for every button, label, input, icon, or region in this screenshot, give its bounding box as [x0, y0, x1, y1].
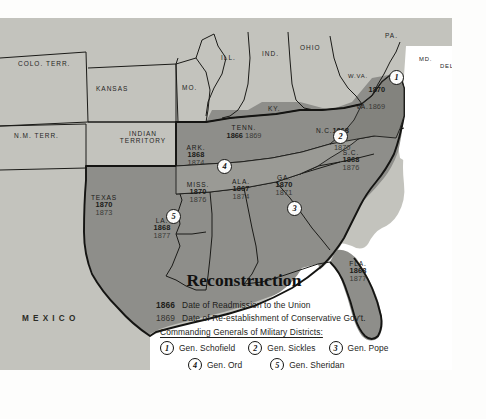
district-badge-4-icon: 4 [188, 358, 202, 370]
country-label-mexico: MEXICO [22, 314, 80, 323]
region-label-del: DEL. [440, 63, 452, 70]
legend-commander-3[interactable]: 3 Gen. Pope [329, 341, 389, 355]
legend-commanders-row-1: 1 Gen. Schofield 2 Gen. Sickles 3 Gen. P… [160, 341, 402, 355]
district-badge-2-icon: 2 [248, 341, 262, 355]
region-label-pa: PA. [385, 32, 398, 39]
district-marker-3[interactable]: 3 [287, 201, 302, 216]
state-label-texas: TEXAS 1870 1873 [76, 194, 132, 217]
legend-commander-5[interactable]: 5 Gen. Sheridan [270, 358, 344, 370]
legend-commander-4[interactable]: 4 Gen. Ord [188, 358, 242, 370]
paper-frame: COLO. TERR. N.M. TERR. KANSAS INDIAN TER… [0, 0, 486, 419]
reconstruction-map-page: COLO. TERR. N.M. TERR. KANSAS INDIAN TER… [0, 0, 486, 419]
state-label-tenn: TENN. 1866 1869 [205, 124, 283, 140]
region-label-md: MD. [419, 56, 432, 63]
state-label-ga: GA. 1870 1871 [266, 174, 302, 197]
map-legend: Reconstruction 1866Date of Readmission t… [0, 270, 452, 291]
region-label-mo: MO. [182, 84, 197, 91]
legend-key-conservative: 1869Date of Re-establishment of Conserva… [156, 313, 366, 323]
district-marker-1[interactable]: 1 [389, 70, 404, 85]
region-label-colo-terr: COLO. TERR. [18, 60, 70, 67]
district-badge-5-icon: 5 [270, 358, 284, 370]
map-image: COLO. TERR. N.M. TERR. KANSAS INDIAN TER… [0, 18, 452, 370]
legend-commanders-header: Commanding Generals of Military District… [160, 327, 323, 337]
district-badge-1-icon: 1 [160, 341, 174, 355]
legend-commander-2[interactable]: 2 Gen. Sickles [248, 341, 315, 355]
legend-key-readmission: 1866Date of Readmission to the Union [156, 300, 310, 310]
region-label-nm-terr: N.M. TERR. [14, 132, 59, 139]
district-badge-3-icon: 3 [329, 341, 343, 355]
map-title: Reconstruction [36, 270, 452, 291]
map-canvas: COLO. TERR. N.M. TERR. KANSAS INDIAN TER… [0, 18, 452, 370]
district-marker-4[interactable]: 4 [217, 159, 232, 174]
region-label-kansas: KANSAS [96, 85, 128, 92]
region-label-ky: KY. [268, 105, 281, 112]
region-label-ohio: OHIO [300, 44, 321, 51]
region-label-ind: IND. [262, 50, 279, 57]
region-label-indian-territory: INDIAN TERRITORY [111, 130, 175, 145]
state-label-ala: ALA. 1867 1874 [222, 178, 260, 201]
state-label-ark: ARK. 1868 1874 [177, 144, 215, 167]
district-marker-5[interactable]: 5 [166, 209, 181, 224]
district-marker-2[interactable]: 2 [333, 129, 348, 144]
legend-commanders-row-2: 4 Gen. Ord 5 Gen. Sheridan [188, 358, 358, 370]
state-label-miss: MISS. 1870 1876 [178, 181, 218, 204]
region-label-ill: ILL. [221, 54, 236, 61]
state-label-va: VA.1870 VA.1869 [356, 79, 385, 113]
legend-commander-1[interactable]: 1 Gen. Schofield [160, 341, 235, 355]
